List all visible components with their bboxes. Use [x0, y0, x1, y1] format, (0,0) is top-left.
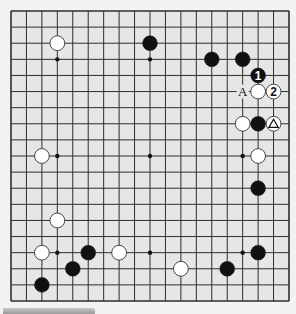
star-point	[148, 250, 152, 254]
black-stone	[81, 245, 96, 260]
black-stone	[235, 52, 250, 67]
star-point	[148, 154, 152, 158]
stone-disc	[251, 149, 266, 164]
move-number-1: 1	[255, 69, 262, 83]
white-stone	[266, 116, 281, 131]
stone-disc	[204, 52, 219, 67]
white-stone	[235, 116, 250, 131]
go-board-diagram: A 12	[0, 0, 296, 314]
white-stone	[173, 261, 188, 276]
stone-disc	[143, 36, 158, 51]
stone-disc	[220, 261, 235, 276]
stone-disc	[251, 181, 266, 196]
page-edge-bar	[3, 308, 95, 314]
white-stone	[112, 245, 127, 260]
stone-disc	[251, 245, 266, 260]
black-stone	[220, 261, 235, 276]
star-point	[240, 154, 244, 158]
black-stone	[34, 277, 49, 292]
white-stone	[50, 213, 65, 228]
white-stone	[50, 36, 65, 51]
star-point	[148, 57, 152, 61]
black-stone	[251, 245, 266, 260]
white-stone	[251, 84, 266, 99]
black-stone	[251, 116, 266, 131]
stone-disc	[81, 245, 96, 260]
star-point	[240, 250, 244, 254]
white-stone	[34, 149, 49, 164]
move-number-2: 2	[270, 85, 277, 99]
point-label-a: A	[238, 84, 248, 99]
white-stone	[251, 149, 266, 164]
black-stone	[65, 261, 80, 276]
point-labels: A	[237, 84, 249, 99]
stone-disc	[50, 36, 65, 51]
star-point	[55, 57, 59, 61]
black-stone	[251, 181, 266, 196]
stone-disc	[251, 84, 266, 99]
stone-disc	[173, 261, 188, 276]
stone-disc	[235, 116, 250, 131]
stone-disc	[50, 213, 65, 228]
white-stone	[34, 245, 49, 260]
star-point	[55, 154, 59, 158]
stone-disc	[34, 149, 49, 164]
black-stone	[204, 52, 219, 67]
stone-disc	[112, 245, 127, 260]
stone-disc	[34, 245, 49, 260]
white-stone: 2	[266, 84, 281, 99]
go-board: A 12	[0, 0, 296, 314]
stone-disc	[65, 261, 80, 276]
black-stone	[143, 36, 158, 51]
black-stone: 1	[251, 68, 266, 83]
star-point	[55, 250, 59, 254]
stone-disc	[251, 116, 266, 131]
stone-disc	[235, 52, 250, 67]
stone-disc	[34, 277, 49, 292]
